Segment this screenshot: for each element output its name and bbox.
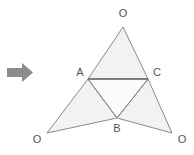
vertex-label-o-top: O [119, 7, 128, 19]
vertex-label-o-right: O [178, 133, 187, 145]
geometry-figure-container: O A C B O O [0, 0, 194, 155]
arrow-right-icon [7, 63, 33, 82]
vertex-label-o-left: O [33, 133, 42, 145]
vertex-label-b: B [113, 122, 120, 134]
arrow-shaft [7, 68, 23, 77]
geometry-diagram: O A C B O O [0, 0, 194, 155]
vertex-label-a: A [76, 66, 84, 78]
top-triangle [88, 27, 148, 79]
arrow-head [22, 63, 33, 82]
vertex-label-c: C [153, 66, 161, 78]
